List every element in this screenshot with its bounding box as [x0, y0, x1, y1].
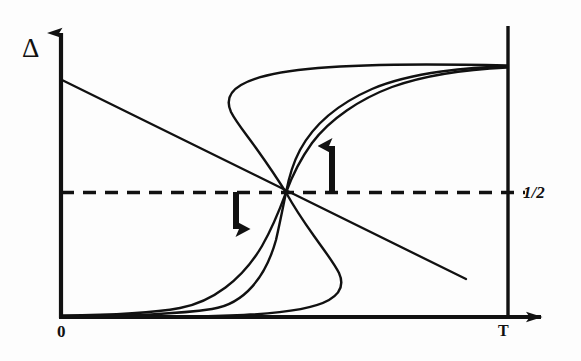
figure-root: Δ 0 T 1/2 [0, 0, 581, 361]
origin-label: 0 [57, 322, 66, 342]
curve-s-shaped-lower [63, 193, 341, 318]
x-axis-label-t: T [498, 322, 509, 340]
curve-s-shaped-upper [229, 65, 507, 193]
phase-diagram-plot [0, 0, 581, 361]
y-axis-label-delta: Δ [22, 33, 39, 64]
straight-line-branch [62, 80, 466, 279]
dashed-level-label-half: 1/2 [523, 183, 545, 203]
